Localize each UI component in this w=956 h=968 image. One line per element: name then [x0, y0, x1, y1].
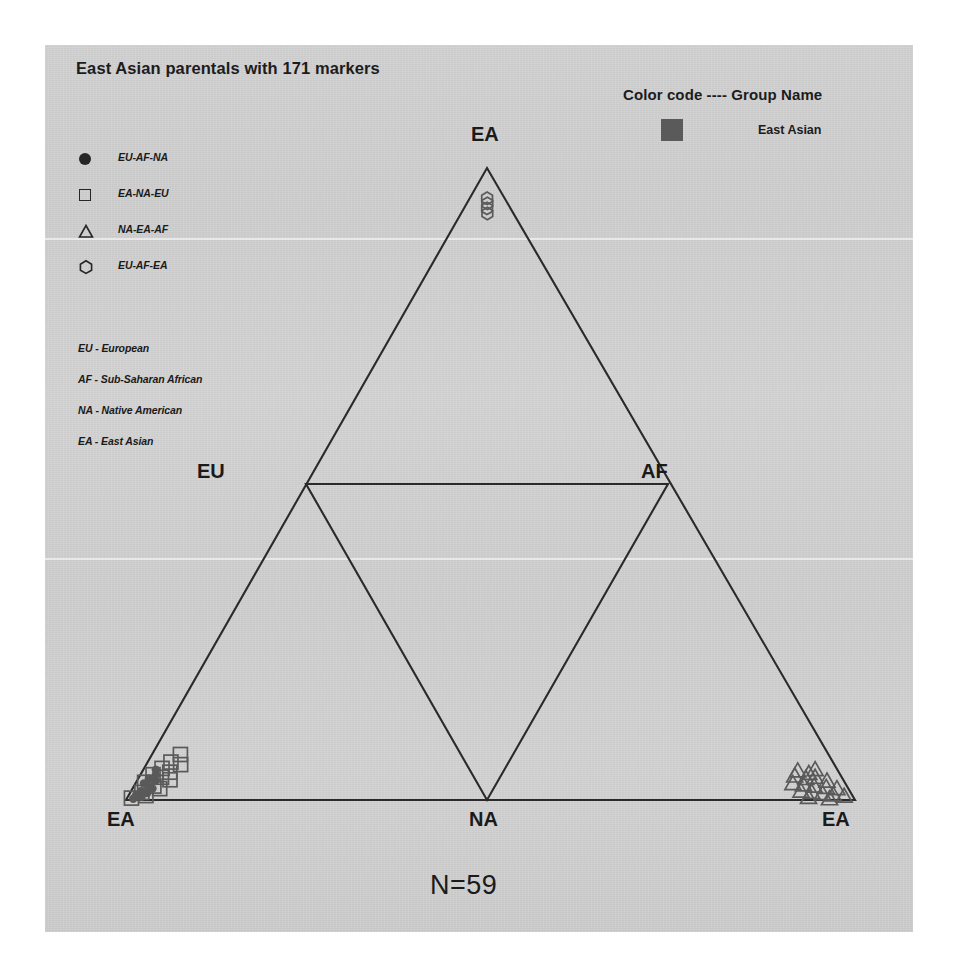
data-point-filled-circle	[143, 789, 151, 797]
vertex-label-eu: EU	[197, 460, 225, 483]
open-square-icon	[78, 187, 94, 203]
data-point-filled-circle	[140, 779, 148, 787]
data-point-open-square	[124, 791, 138, 805]
color-legend-label-east-asian: East Asian	[758, 123, 821, 137]
data-point-open-square	[135, 785, 149, 799]
legend-row-eu-af-ea: EU-AF-EA	[78, 257, 278, 293]
data-point-open-triangle	[798, 771, 814, 785]
legend-row-na-ea-af: NA-EA-AF	[78, 221, 278, 257]
data-point-open-triangle	[787, 768, 803, 782]
open-triangle-icon	[78, 223, 94, 239]
data-point-filled-circle	[152, 771, 160, 779]
color-legend-row-east-asian: East Asian	[623, 119, 903, 145]
data-point-open-triangle	[814, 786, 830, 800]
data-point-open-square	[164, 755, 178, 769]
marker-shape-legend: EU-AF-NA EA-NA-EU NA-EA-AF	[78, 149, 278, 293]
legend-label-na-ea-af: NA-EA-AF	[118, 223, 168, 235]
marker-cluster-bottom-left	[124, 747, 187, 805]
color-code-legend: Color code ---- Group Name East Asian	[623, 86, 903, 145]
data-point-open-triangle	[829, 781, 845, 795]
data-point-open-square	[147, 779, 161, 793]
data-point-open-square	[154, 770, 168, 784]
sample-size-caption: N=59	[430, 870, 497, 901]
data-point-open-hexagon	[482, 202, 493, 214]
data-point-open-square	[138, 775, 152, 789]
data-point-filled-circle	[145, 774, 153, 782]
data-point-open-triangle	[807, 762, 823, 776]
abbrev-af: AF - Sub-Saharan African	[78, 373, 308, 404]
data-point-open-triangle	[801, 789, 817, 803]
data-point-open-triangle	[785, 776, 801, 790]
data-point-open-triangle	[818, 779, 834, 793]
data-point-filled-circle	[137, 793, 145, 801]
legend-label-eu-af-na: EU-AF-NA	[118, 151, 168, 163]
data-point-open-triangle	[795, 777, 811, 791]
figure-root: East Asian parentals with 171 markers EU…	[0, 0, 956, 968]
data-point-open-triangle	[836, 788, 852, 802]
filled-circle-icon	[78, 151, 94, 167]
data-point-open-square	[155, 761, 169, 775]
data-point-filled-circle	[148, 784, 156, 792]
data-point-open-triangle	[807, 769, 823, 783]
scan-band	[45, 558, 913, 560]
data-point-open-triangle	[825, 787, 841, 801]
data-point-open-triangle	[822, 791, 838, 805]
data-point-filled-circle	[151, 777, 159, 785]
data-point-open-square	[153, 782, 167, 796]
data-point-open-square	[163, 773, 177, 787]
data-point-open-square	[163, 765, 177, 779]
vertex-label-bottom-right: EA	[822, 808, 850, 831]
legend-label-eu-af-ea: EU-AF-EA	[118, 259, 167, 271]
vertex-label-af: AF	[641, 460, 668, 483]
data-point-open-triangle	[806, 778, 822, 792]
data-point-open-hexagon	[482, 207, 493, 219]
abbreviation-key: EU - European AF - Sub-Saharan African N…	[78, 342, 308, 466]
vertex-label-apex: EA	[471, 123, 499, 146]
marker-cluster-apex	[482, 192, 493, 220]
data-point-filled-circle	[144, 782, 152, 790]
data-point-open-square	[139, 789, 153, 803]
abbrev-na: NA - Native American	[78, 404, 308, 435]
data-point-open-triangle	[793, 783, 809, 797]
scan-panel: East Asian parentals with 171 markers EU…	[45, 45, 913, 932]
data-point-filled-circle	[129, 795, 137, 803]
data-point-open-square	[173, 747, 187, 761]
color-swatch-east-asian	[661, 119, 683, 141]
vertex-label-bottom-left: EA	[107, 808, 135, 831]
legend-row-eu-af-na: EU-AF-NA	[78, 149, 278, 185]
marker-cluster-bottom-right	[785, 762, 852, 805]
inner-triangle-outline	[306, 484, 668, 800]
data-point-open-hexagon	[482, 197, 493, 209]
data-point-open-triangle	[819, 773, 835, 787]
vertex-label-bottom-center: NA	[469, 808, 498, 831]
abbrev-eu: EU - European	[78, 342, 308, 373]
abbrev-ea: EA - East Asian	[78, 435, 308, 466]
data-point-open-triangle	[804, 784, 820, 798]
data-point-filled-circle	[152, 765, 160, 773]
open-hexagon-icon	[78, 259, 94, 275]
legend-label-ea-na-eu: EA-NA-EU	[118, 187, 169, 199]
color-legend-title: Color code ---- Group Name	[623, 86, 903, 103]
page-title: East Asian parentals with 171 markers	[76, 59, 380, 78]
data-point-filled-circle	[137, 787, 145, 795]
data-point-open-square	[146, 768, 160, 782]
data-point-filled-circle	[132, 791, 140, 799]
data-point-open-square	[174, 758, 188, 772]
data-point-open-hexagon	[482, 192, 493, 204]
legend-row-ea-na-eu: EA-NA-EU	[78, 185, 278, 221]
data-point-open-triangle	[790, 763, 806, 777]
data-point-open-triangle	[801, 765, 817, 779]
